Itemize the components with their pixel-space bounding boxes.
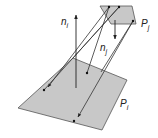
form-factor-diagram: ni nj Pj Pi [0, 0, 158, 138]
label-pj: Pj [141, 18, 150, 32]
label-ni: ni [61, 16, 69, 29]
patch-pi [18, 58, 127, 130]
label-pi: Pi [120, 98, 129, 111]
label-nj: nj [100, 42, 108, 56]
